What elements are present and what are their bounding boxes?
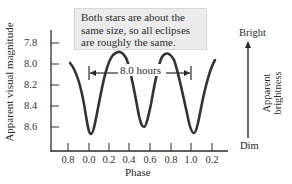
x-tick-label: 0.0 xyxy=(79,154,99,165)
x-tick-label: 0.2 xyxy=(202,154,222,165)
arrow-right-icon xyxy=(184,70,190,76)
x-ticks xyxy=(68,143,212,151)
arrow-left-icon xyxy=(90,70,96,76)
x-tick-label: 0.8 xyxy=(58,154,78,165)
x-tick-label: 1.0 xyxy=(181,154,201,165)
x-tick-label: 0.2 xyxy=(99,154,119,165)
x-tick-label: 0.4 xyxy=(119,154,139,165)
y-axis-title: Apparent visual magnitude xyxy=(3,12,15,152)
x-tick-label: 0.8 xyxy=(161,154,181,165)
brightness-axis-title: Apparent brightness xyxy=(261,63,283,123)
brightness-title-line1: Apparent xyxy=(261,63,272,123)
y-ticks xyxy=(51,43,59,127)
y-tick-label: 8.6 xyxy=(24,121,37,132)
x-axis-title: Phase xyxy=(125,166,151,178)
period-label: 8.0 hours xyxy=(119,64,162,76)
y-tick-label: 8.0 xyxy=(24,58,37,69)
y-tick-label: 7.8 xyxy=(24,37,37,48)
bright-label: Bright xyxy=(239,27,266,38)
brightness-title-line2: brightness xyxy=(272,63,283,123)
x-tick-label: 0.6 xyxy=(140,154,160,165)
annotation-note: Both stars are about the same size, so a… xyxy=(74,8,207,50)
y-tick-label: 8.2 xyxy=(24,79,37,90)
y-tick-label: 8.4 xyxy=(24,100,37,111)
arrow-up-icon xyxy=(245,41,251,48)
dim-label: Dim xyxy=(240,140,259,151)
